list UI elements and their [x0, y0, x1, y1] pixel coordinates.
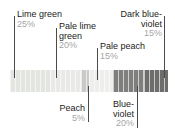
- callout-pale-lime-green-label-line1: Pale lime: [59, 21, 96, 31]
- leader-line-lime-green: [14, 16, 15, 78]
- callout-lime-green: Lime green 25%: [17, 10, 62, 29]
- callout-pale-peach-label: Pale peach: [100, 41, 145, 51]
- callout-peach: Peach 5%: [55, 104, 85, 123]
- color-proportion-figure: Lime green 25% Pale lime green 20% Pale …: [0, 0, 175, 132]
- callout-pale-peach: Pale peach 15%: [100, 42, 145, 61]
- callout-peach-label: Peach: [59, 103, 85, 113]
- callout-pale-peach-percent: 15%: [100, 52, 145, 62]
- leader-line-pale-lime-green: [56, 28, 57, 78]
- callout-pale-lime-green-percent: 20%: [59, 41, 96, 51]
- callout-blue-violet-label-line2: violet: [113, 109, 134, 119]
- callout-blue-violet-label-line1: Blue-: [113, 99, 134, 109]
- callout-pale-lime-green: Pale lime green 20%: [59, 22, 96, 51]
- bar-segment-lime-green: [10, 70, 50, 92]
- bar-segment-pale-peach: [89, 70, 113, 92]
- bar-segment-pale-lime-green: [50, 70, 82, 92]
- callout-blue-violet-percent: 20%: [104, 119, 134, 129]
- leader-line-blue-violet: [137, 86, 138, 128]
- callout-dark-blue-violet-percent: 15%: [120, 29, 162, 39]
- callout-lime-green-percent: 25%: [17, 20, 62, 30]
- leader-line-pale-peach: [97, 48, 98, 80]
- callout-dark-blue-violet: Dark blue- violet 15%: [120, 10, 162, 39]
- callout-lime-green-label: Lime green: [17, 9, 62, 19]
- callout-peach-percent: 5%: [55, 114, 85, 124]
- bar-segment-blue-violet: [113, 70, 145, 92]
- callout-pale-lime-green-label-line2: green: [59, 31, 82, 41]
- leader-line-peach: [88, 86, 89, 122]
- callout-dark-blue-violet-label-line2: violet: [141, 19, 162, 29]
- callout-blue-violet: Blue- violet 20%: [104, 100, 134, 129]
- leader-line-dark-blue-violet: [164, 16, 165, 78]
- stacked-color-bar: [10, 70, 168, 92]
- callout-dark-blue-violet-label-line1: Dark blue-: [120, 9, 162, 19]
